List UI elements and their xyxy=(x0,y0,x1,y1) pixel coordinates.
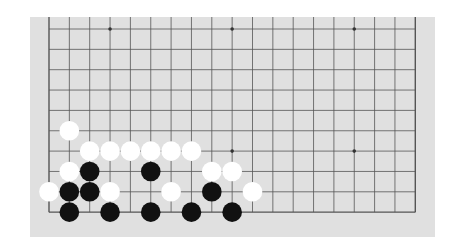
white-stone[interactable] xyxy=(161,182,181,202)
white-stone[interactable] xyxy=(100,182,120,202)
white-stone[interactable] xyxy=(202,162,222,182)
white-stone[interactable] xyxy=(60,162,80,182)
star-point xyxy=(230,27,234,31)
black-stone[interactable] xyxy=(202,182,222,202)
black-stone[interactable] xyxy=(141,162,161,182)
star-point xyxy=(352,27,356,31)
white-stone[interactable] xyxy=(60,121,80,141)
black-stone[interactable] xyxy=(60,182,80,202)
black-stone[interactable] xyxy=(80,182,100,202)
black-stone[interactable] xyxy=(60,202,80,222)
black-stone[interactable] xyxy=(222,202,242,222)
white-stone[interactable] xyxy=(141,141,161,161)
white-stone[interactable] xyxy=(222,162,242,182)
star-point xyxy=(352,149,356,153)
white-stone[interactable] xyxy=(161,141,181,161)
star-point xyxy=(108,27,112,31)
black-stone[interactable] xyxy=(80,162,100,182)
white-stone[interactable] xyxy=(80,141,100,161)
white-stone[interactable] xyxy=(100,141,120,161)
white-stone[interactable] xyxy=(121,141,141,161)
go-board-grid[interactable] xyxy=(30,17,435,237)
star-point xyxy=(230,149,234,153)
go-board[interactable] xyxy=(30,17,435,237)
black-stone[interactable] xyxy=(100,202,120,222)
black-stone[interactable] xyxy=(141,202,161,222)
black-stone[interactable] xyxy=(182,202,202,222)
white-stone[interactable] xyxy=(182,141,202,161)
white-stone[interactable] xyxy=(243,182,263,202)
white-stone[interactable] xyxy=(39,182,59,202)
